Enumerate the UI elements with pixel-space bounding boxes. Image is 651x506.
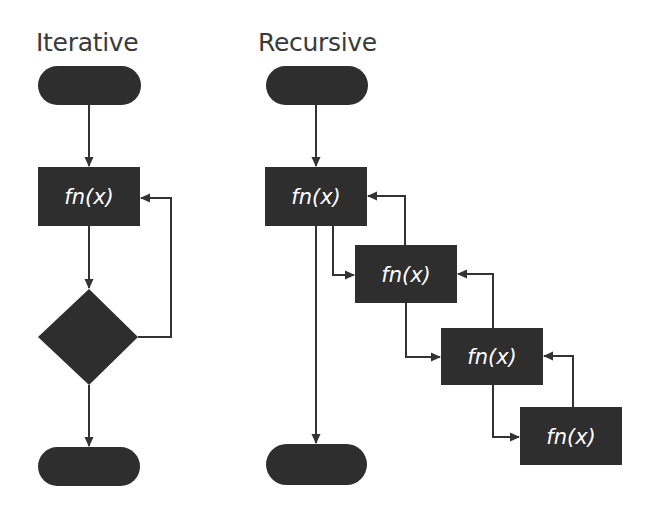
recursive-fn4-label: fn(x) bbox=[546, 425, 596, 449]
iterative-fn-label: fn(x) bbox=[64, 185, 114, 209]
recursive-fn2-label: fn(x) bbox=[381, 263, 431, 287]
edge-return-fn3-to-fn2 bbox=[458, 274, 493, 328]
recursive-fn-node-3: fn(x) bbox=[441, 328, 543, 385]
edge-call-fn1-to-fn2 bbox=[333, 226, 354, 275]
edge-call-fn2-to-fn3 bbox=[406, 303, 440, 357]
recursive-end-terminator bbox=[266, 444, 367, 485]
edge-return-fn4-to-fn3 bbox=[544, 356, 573, 407]
recursive-fn-node-1: fn(x) bbox=[265, 167, 367, 226]
iterative-decision-diamond bbox=[38, 289, 138, 385]
recursive-fn-node-4: fn(x) bbox=[520, 407, 622, 465]
iterative-flowchart: fn(x) bbox=[38, 66, 171, 486]
edge-call-fn3-to-fn4 bbox=[493, 385, 519, 437]
recursive-fn1-label: fn(x) bbox=[291, 185, 341, 209]
edge-loop-back bbox=[138, 198, 171, 337]
recursive-fn-node-2: fn(x) bbox=[355, 245, 457, 303]
iterative-fn-node: fn(x) bbox=[38, 167, 140, 226]
edge-return-fn2-to-fn1 bbox=[368, 196, 405, 245]
iterative-connectors bbox=[89, 105, 171, 446]
iterative-end-terminator bbox=[38, 447, 140, 486]
recursive-start-terminator bbox=[266, 66, 368, 105]
flowchart-canvas: fn(x) fn(x) fn(x) fn( bbox=[0, 0, 651, 506]
iterative-start-terminator bbox=[38, 66, 141, 105]
recursive-flowchart: fn(x) fn(x) fn(x) fn(x) bbox=[265, 66, 622, 485]
recursive-fn3-label: fn(x) bbox=[467, 345, 517, 369]
